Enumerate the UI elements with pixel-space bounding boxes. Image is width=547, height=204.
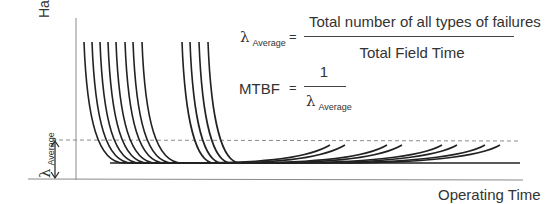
x-axis-label: Operating Time — [438, 186, 541, 203]
formula2-equals: = — [289, 80, 297, 95]
x-axis — [28, 179, 523, 180]
y-axis-label: Hazard Rate λ(t) — [36, 0, 56, 18]
lambda-average-axis-label: λAverage — [36, 132, 54, 178]
formula1-numerator: Total number of all types of failures — [309, 13, 515, 30]
formula2-denominator: λAverage — [306, 92, 352, 110]
wear-out-curve — [320, 145, 485, 163]
formula1-fraction-bar — [304, 36, 514, 37]
infant-mortality-curve — [208, 42, 298, 163]
formula2-lhs: MTBF — [239, 80, 280, 97]
formula2-numerator: 1 — [304, 63, 344, 80]
formula1-lhs: λAverage — [240, 28, 286, 46]
formula2-fraction-bar — [304, 86, 346, 87]
formula1-denominator: Total Field Time — [309, 44, 515, 61]
formula1-equals: = — [289, 29, 297, 44]
